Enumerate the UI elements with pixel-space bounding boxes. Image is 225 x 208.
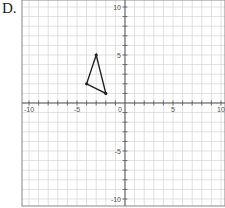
x-tick-label: -10	[24, 106, 34, 113]
x-tick-label: 5	[171, 106, 175, 113]
y-tick-label: 10	[113, 4, 121, 11]
coordinate-plane: -10-50510105-5-10	[0, 0, 225, 208]
vertex-point	[95, 53, 98, 56]
y-tick-label: -10	[111, 196, 121, 203]
vertex-point	[104, 92, 107, 95]
y-tick-label: -5	[115, 148, 121, 155]
x-tick-label: 10	[217, 106, 225, 113]
x-tick-label: 0	[118, 106, 122, 113]
vertex-point	[85, 82, 88, 85]
y-tick-label: 5	[117, 52, 121, 59]
x-tick-label: -5	[74, 106, 80, 113]
